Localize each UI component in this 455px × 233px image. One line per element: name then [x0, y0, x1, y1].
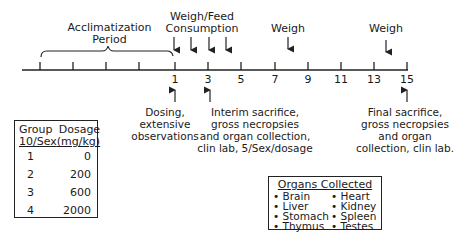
tick-label-15: 15 [397, 74, 417, 86]
table-row: 42000 [15, 202, 97, 220]
organs-collected-box: Organs Collected Brain Heart Liver Kidne… [268, 176, 382, 230]
tick-label-5: 5 [231, 74, 251, 86]
acclimatization-brace [41, 46, 173, 57]
table-row: 3600 [15, 184, 97, 202]
list-item: Thymus [273, 221, 331, 231]
tick-label-1: 1 [165, 74, 185, 86]
tick-label-13: 13 [364, 74, 384, 86]
weigh-label-1: Weigh [268, 23, 308, 35]
organs-list: Brain Heart Liver Kidney Stomach Spleen … [273, 191, 377, 231]
final-sacrifice-label: Final sacrifice, gross necropsies and or… [355, 106, 455, 154]
table-header: Group 10/Sex Dosage (mg/kg) [15, 121, 97, 148]
table-row: 2200 [15, 166, 97, 184]
tick-label-11: 11 [331, 74, 351, 86]
acclimatization-label: Acclimatization Period [62, 22, 157, 46]
acclimatization-ticks [40, 62, 139, 70]
weigh-feed-arrows [174, 37, 226, 50]
tick-label-9: 9 [298, 74, 318, 86]
weigh-feed-label: Weigh/Feed Consumption [162, 11, 242, 35]
tick-label-3: 3 [198, 74, 218, 86]
group-dosage-table: Group 10/Sex Dosage (mg/kg) 10 2200 3600… [14, 120, 98, 218]
list-item: Testes [331, 221, 381, 231]
week-ticks [175, 62, 407, 70]
interim-sacrifice-label: Interim sacrifice, gross necropsies and … [193, 106, 317, 154]
table-row: 10 [15, 148, 97, 166]
weigh-label-2: Weigh [366, 23, 406, 35]
tick-label-7: 7 [265, 74, 285, 86]
